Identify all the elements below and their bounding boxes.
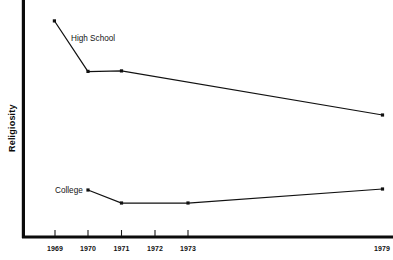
series-label-high-school: High School bbox=[71, 34, 115, 43]
x-axis-ticks bbox=[55, 230, 188, 236]
high-school-point-1969 bbox=[53, 19, 56, 22]
x-axis-tick-labels: 1969 1970 1971 1972 1973 1979 bbox=[47, 245, 390, 252]
series-label-college: College bbox=[55, 186, 83, 195]
college-line bbox=[88, 189, 383, 203]
x-tick-label-1971: 1971 bbox=[113, 245, 129, 252]
x-tick-label-1970: 1970 bbox=[80, 245, 96, 252]
x-tick-label-1973: 1973 bbox=[180, 245, 196, 252]
high-school-point-1971 bbox=[120, 69, 123, 72]
high-school-point-1970 bbox=[86, 70, 89, 73]
religiosity-line-chart: 1969 1970 1971 1972 1973 1979 Religiosit… bbox=[0, 0, 393, 260]
college-point-1979 bbox=[381, 187, 384, 190]
college-point-1973 bbox=[186, 201, 189, 204]
y-axis-title: Religiosity bbox=[7, 104, 17, 152]
college-point-1970 bbox=[86, 188, 89, 191]
x-tick-label-1969: 1969 bbox=[47, 245, 63, 252]
chart-container: 1969 1970 1971 1972 1973 1979 Religiosit… bbox=[0, 0, 393, 260]
x-tick-label-1979: 1979 bbox=[374, 245, 390, 252]
high-school-point-1979 bbox=[381, 113, 384, 116]
x-tick-label-1972: 1972 bbox=[147, 245, 163, 252]
college-point-1971 bbox=[120, 201, 123, 204]
series-college bbox=[86, 187, 384, 204]
